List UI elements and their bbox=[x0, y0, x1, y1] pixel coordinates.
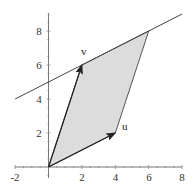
diagram-canvas: -2 2 4 6 8 2 4 bbox=[0, 0, 196, 191]
x-tick-label: 8 bbox=[179, 171, 185, 183]
x-tick-label: 4 bbox=[113, 171, 119, 183]
y-tick-label: 8 bbox=[36, 25, 42, 37]
y-tick-label: 4 bbox=[36, 93, 42, 105]
vector-v-label: v bbox=[81, 45, 87, 57]
vector-u-label: u bbox=[122, 120, 128, 132]
y-axis: 2 4 6 8 bbox=[36, 13, 50, 178]
y-tick-label: 6 bbox=[36, 59, 42, 71]
parallelogram-region bbox=[49, 31, 149, 167]
x-axis: -2 2 4 6 8 bbox=[10, 165, 185, 183]
x-tick-label: 2 bbox=[79, 171, 85, 183]
x-tick-label: -2 bbox=[10, 171, 19, 183]
y-tick-label: 2 bbox=[36, 127, 42, 139]
x-tick-label: 6 bbox=[146, 171, 152, 183]
